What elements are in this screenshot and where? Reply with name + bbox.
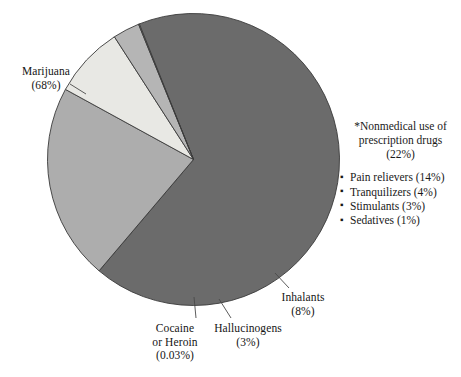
- bullet-icon: ▪: [340, 198, 344, 212]
- annotation-list-item-label: Stimulants (3%): [350, 200, 425, 212]
- slice-label-cocaine-pct: (0.03%): [143, 349, 207, 363]
- annotation-line-2: prescription drugs: [340, 134, 461, 148]
- annotation-line-1: *Nonmedical use of: [340, 120, 461, 134]
- bullet-icon: ▪: [340, 170, 344, 184]
- slice-label-cocaine-or-heroin: Cocaine or Heroin (0.03%): [143, 322, 207, 363]
- bullet-icon: ▪: [340, 184, 344, 198]
- annotation-breakdown-list: ▪Pain relievers (14%)▪Tranquilizers (4%)…: [340, 170, 461, 227]
- slice-label-cocaine-line1: Cocaine: [143, 322, 207, 336]
- slice-label-inhalants-pct: (8%): [268, 305, 338, 319]
- slice-label-inhalants: Inhalants (8%): [268, 291, 338, 318]
- annotation-heading: *Nonmedical use of prescription drugs (2…: [340, 120, 461, 161]
- slice-label-hallucinogens-name: Hallucinogens: [208, 322, 288, 336]
- slice-label-hallucinogens-pct: (3%): [208, 336, 288, 350]
- annotation-list-item: ▪Tranquilizers (4%): [340, 185, 461, 199]
- slice-label-inhalants-name: Inhalants: [268, 291, 338, 305]
- annotation-list-item-label: Tranquilizers (4%): [350, 186, 437, 198]
- prescription-drugs-annotation: *Nonmedical use of prescription drugs (2…: [340, 120, 461, 227]
- annotation-list-item: ▪Stimulants (3%): [340, 199, 461, 213]
- annotation-list-item-label: Pain relievers (14%): [350, 171, 445, 183]
- slice-label-marijuana-pct: (68%): [6, 79, 86, 93]
- annotation-list-item: ▪Pain relievers (14%): [340, 170, 461, 184]
- annotation-list-item: ▪Sedatives (1%): [340, 213, 461, 227]
- pie-chart-figure: Marijuana (68%) Inhalants (8%) Hallucino…: [0, 0, 461, 377]
- bullet-icon: ▪: [340, 213, 344, 227]
- annotation-line-3: (22%): [340, 148, 461, 162]
- slice-label-hallucinogens: Hallucinogens (3%): [208, 322, 288, 349]
- annotation-list-item-label: Sedatives (1%): [350, 214, 420, 226]
- slice-label-cocaine-line2: or Heroin: [143, 336, 207, 350]
- slice-label-marijuana: Marijuana (68%): [6, 65, 86, 92]
- slice-label-marijuana-name: Marijuana: [6, 65, 86, 79]
- pie-slices-group: [47, 13, 339, 305]
